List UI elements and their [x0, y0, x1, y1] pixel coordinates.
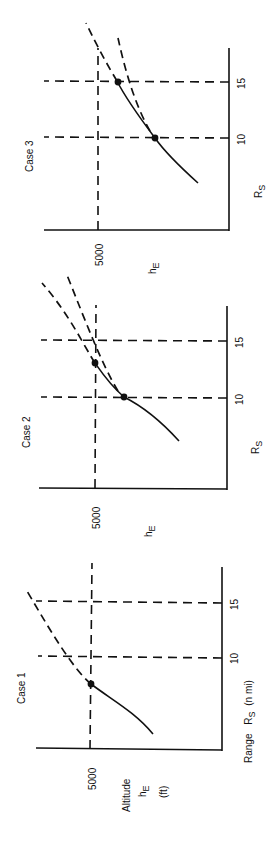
svg-text:hE: hE: [143, 525, 157, 537]
case1-y-tick-5000: 5000: [87, 767, 98, 790]
case-diagram-figure: Case 3 5000 10 15 RS hE Case 2 5000 10 1…: [0, 0, 269, 843]
case3-x-tick-15: 15: [236, 77, 247, 89]
case2-altitude-axis: [39, 488, 227, 489]
case1-x-axis-label: Range RS (n mi): [243, 680, 257, 763]
svg-text:hE: hE: [137, 785, 151, 797]
case1-range10-line: [38, 656, 222, 658]
case2-5000ft-line: [95, 305, 96, 488]
svg-text:(ft): (ft): [158, 786, 169, 798]
case3-altitude-curve: [117, 81, 198, 183]
case3-range15-line: [44, 81, 229, 82]
case3-curve-extension-a: [86, 23, 117, 81]
svg-text:RS: RS: [253, 185, 267, 198]
case2-altitude-curve: [95, 363, 179, 441]
case2-y-tick-5000: 5000: [91, 506, 102, 529]
case2-curve-extension-a: [42, 283, 95, 363]
svg-text:hE: hE: [147, 262, 161, 274]
case2-intersection-10: [121, 394, 128, 401]
panel-case3: Case 3 5000 10 15 RS hE: [24, 23, 267, 274]
case1-altitude-curve: [91, 684, 153, 734]
case3-x-tick-10: 10: [236, 133, 247, 145]
panel-case1: Case 1 5000 10 15 Range RS (n mi) Altitu…: [16, 563, 257, 812]
case1-curve-extension: [27, 591, 91, 684]
case1-x-tick-10: 10: [229, 652, 240, 664]
case1-altitude-axis: [36, 748, 222, 750]
case3-y-tick-5000: 5000: [94, 243, 105, 266]
case3-title: Case 3: [24, 140, 35, 172]
case3-curve-extension-b: [118, 38, 150, 131]
case3-y-axis-label: hE: [147, 262, 161, 274]
panel-case2: Case 2 5000 10 15 RS hE: [21, 275, 264, 537]
case2-x-tick-10: 10: [234, 393, 245, 405]
case1-y-axis-label: Altitude hE (ft): [121, 778, 169, 812]
case2-range15-line: [41, 340, 227, 341]
case1-intersection-5000: [88, 681, 95, 688]
case3-intersection-10: [152, 135, 159, 142]
svg-text:Range RS (n mi: Range RS (n mi): [243, 680, 257, 763]
case1-title: Case 1: [16, 672, 27, 704]
case3-range10-line: [44, 137, 229, 138]
case2-y-axis-label: hE: [143, 525, 157, 537]
case1-5000ft-line: [90, 563, 92, 749]
case2-x-tick-15: 15: [234, 336, 245, 348]
case2-range10-line: [41, 397, 227, 398]
case2-title: Case 2: [21, 416, 32, 448]
case2-curve-extension-b: [67, 275, 118, 391]
case2-intersection-5000: [92, 360, 99, 367]
case3-x-axis-label: RS: [253, 185, 267, 198]
svg-text:RS: RS: [250, 441, 264, 454]
case2-x-axis-label: RS: [250, 441, 264, 454]
svg-text:Altitude: Altitude: [121, 778, 132, 812]
case3-intersection-15: [115, 79, 122, 86]
case1-range15-line: [36, 601, 222, 603]
case1-x-tick-15: 15: [229, 598, 240, 610]
